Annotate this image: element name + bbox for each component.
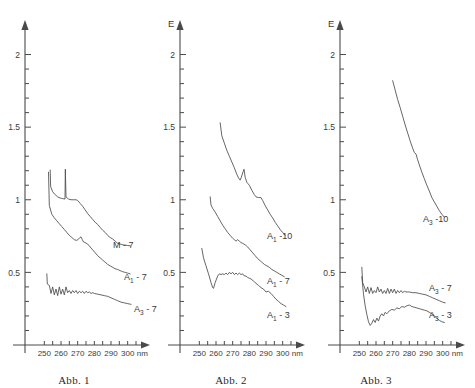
x-axis-tick-label: 290 — [104, 349, 118, 358]
curve-label: A3 - 7 — [429, 283, 452, 295]
y-axis-arrow — [176, 20, 183, 30]
x-axis-tick-label: 280 — [243, 349, 257, 358]
x-axis-tick-label: 270 — [226, 349, 240, 358]
x-axis-tick-label: 300 — [121, 349, 135, 358]
x-axis-tick-label: 260 — [369, 349, 383, 358]
y-axis-tick-label: 1 — [170, 195, 175, 205]
spectrum-curve — [49, 172, 131, 274]
figure-abb-2: 0.511.52250260270280290300nmEA1 -10A1 - … — [155, 0, 315, 388]
curve-label: A1 - 3 — [267, 310, 290, 322]
x-axis-tick-label: 270 — [71, 349, 85, 358]
curve-label: A3 - 7 — [134, 304, 157, 316]
x-axis-tick-label: 260 — [209, 349, 223, 358]
y-axis-tick-label: 0.5 — [163, 268, 175, 278]
curve-label: A1 - 7 — [267, 276, 290, 288]
x-axis-tick-label: 290 — [419, 349, 433, 358]
figure-page: 0.511.52250260270280290300nmM - 7A1 - 7A… — [0, 0, 475, 388]
spectrum-curve — [220, 123, 285, 236]
x-axis-tick-label: 260 — [54, 349, 68, 358]
curve-label: A3 - 3 — [429, 310, 452, 322]
y-axis-tick-label: 1.5 — [8, 122, 20, 132]
x-axis-arrow — [456, 342, 465, 349]
x-axis-tick-label: 300 — [276, 349, 290, 358]
y-axis-tick-label: 1.5 — [163, 122, 175, 132]
figure-caption-abb-1: Abb. 1 — [0, 374, 154, 386]
x-axis-tick-label: 300 — [436, 349, 450, 358]
y-axis-tick-label: 2 — [170, 50, 175, 60]
y-axis-tick-label: 2 — [330, 50, 335, 60]
x-axis-tick-label: 250 — [38, 349, 52, 358]
figure-caption-abb-3: Abb. 3 — [291, 374, 461, 386]
curve-label: M - 7 — [113, 240, 134, 250]
plot-area-abb-2: 0.511.52250260270280290300nmEA1 -10A1 - … — [155, 0, 315, 370]
x-axis-tick-label: 280 — [88, 349, 102, 358]
x-axis-tick-label: 290 — [259, 349, 273, 358]
x-axis-arrow — [141, 342, 150, 349]
y-axis-title: E — [328, 18, 334, 29]
y-axis-arrow — [21, 20, 28, 30]
x-axis-tick-label: 280 — [403, 349, 417, 358]
y-axis-tick-label: 1.5 — [323, 122, 335, 132]
spectrum-curve — [47, 274, 131, 305]
x-axis-tick-label: 250 — [193, 349, 207, 358]
x-axis-tick-label: 270 — [386, 349, 400, 358]
y-axis-tick-label: 2 — [15, 50, 20, 60]
y-axis-tick-label: 1 — [330, 195, 335, 205]
spectrum-curve — [202, 248, 286, 306]
curve-label: A1 -10 — [267, 231, 292, 243]
plot-area-abb-3: 0.511.52250260270280290300nmEA3 -10A3 - … — [305, 0, 475, 370]
curve-label: A1 - 7 — [124, 272, 147, 284]
y-axis-tick-label: 1 — [15, 195, 20, 205]
curve-label: A3 -10 — [423, 214, 448, 226]
spectrum-curve — [393, 81, 445, 218]
plot-area-abb-1: 0.511.52250260270280290300nmM - 7A1 - 7A… — [0, 0, 160, 370]
spectrum-curve — [50, 169, 130, 246]
x-axis-unit-label: nm — [137, 349, 148, 358]
figure-abb-3: 0.511.52250260270280290300nmEA3 -10A3 - … — [305, 0, 475, 388]
y-axis-tick-label: 0.5 — [323, 268, 335, 278]
figure-abb-1: 0.511.52250260270280290300nmM - 7A1 - 7A… — [0, 0, 160, 388]
y-axis-tick-label: 0.5 — [8, 268, 20, 278]
x-axis-unit-label: nm — [292, 349, 303, 358]
x-axis-unit-label: nm — [452, 349, 463, 358]
y-axis-arrow — [336, 20, 343, 30]
x-axis-arrow — [296, 342, 305, 349]
figure-caption-abb-2: Abb. 2 — [151, 374, 311, 386]
x-axis-tick-label: 250 — [353, 349, 367, 358]
y-axis-title: E — [168, 18, 174, 29]
